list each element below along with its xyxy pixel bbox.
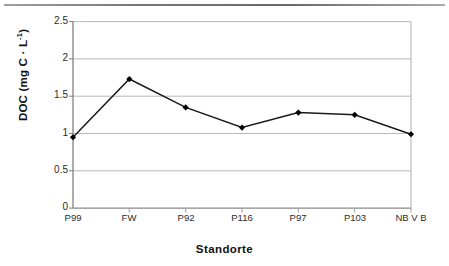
data-point-p103	[352, 112, 358, 118]
y-axis-title-main: DOC (mg C · L	[17, 40, 29, 121]
x-tick-label-fw: FW	[99, 212, 159, 223]
x-axis-title: Standorte	[0, 243, 449, 255]
y-tick-label-0-5: 0.5	[42, 164, 68, 175]
y-tick-label-1-5: 1.5	[42, 89, 68, 100]
x-tick-label-nb-v-b: NB V B	[381, 212, 441, 223]
x-tick-label-p103: P103	[325, 212, 385, 223]
data-point-nb-v-b	[408, 131, 414, 137]
data-point-p116	[239, 124, 245, 130]
y-tick-label-2-5: 2.5	[42, 15, 68, 26]
y-tick-label-0: 0	[42, 201, 68, 212]
data-point-p92	[183, 104, 189, 110]
data-point-p97	[295, 110, 301, 116]
x-tick-label-p99: P99	[43, 212, 103, 223]
x-tick-label-p97: P97	[268, 212, 328, 223]
plot-border	[73, 22, 411, 209]
x-tick-label-p116: P116	[212, 212, 272, 223]
series-markers	[70, 76, 414, 140]
y-tick-label-1: 1	[42, 127, 68, 138]
y-axis-title-exponent: -1	[15, 33, 24, 40]
data-series-doc	[70, 76, 414, 140]
chart-figure: 2.5 2 1.5 1 0.5 0 P99 FW P92 P116 P97 P1…	[0, 0, 449, 266]
y-axis-title-tail: )	[17, 29, 29, 33]
x-tick-label-p92: P92	[156, 212, 216, 223]
plot-gridlines	[73, 22, 411, 171]
y-tick-label-2: 2	[42, 52, 68, 63]
y-axis-title: DOC (mg C · L-1)	[15, 10, 29, 140]
